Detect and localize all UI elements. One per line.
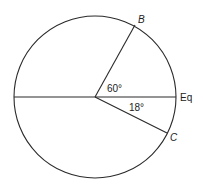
angle-18-label: 18° [129,102,144,113]
circle-diagram: B C Eq 60° 18° [0,0,203,194]
angle-60-label: 60° [107,83,122,94]
point-b-label: B [138,14,145,25]
equator-label: Eq [180,92,192,103]
point-c-label: C [170,132,178,143]
